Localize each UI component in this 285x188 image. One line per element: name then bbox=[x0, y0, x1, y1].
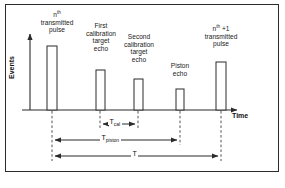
label-plus-one: +1 bbox=[220, 25, 229, 32]
label-pulse-2: pulse bbox=[191, 40, 251, 48]
label-piston-echo: Piston echo bbox=[158, 62, 202, 77]
label-sup-th-1: th bbox=[57, 10, 61, 15]
label-echo-3: echo bbox=[158, 70, 202, 78]
label-second-calibration-target-echo: Second calibration target echo bbox=[113, 33, 165, 63]
measure-label-tcal: Tcal bbox=[108, 118, 122, 125]
label-calibration-2: calibration bbox=[113, 41, 165, 49]
tcal-sub: cal bbox=[114, 121, 120, 127]
label-target-2: target bbox=[113, 48, 165, 56]
x-axis-label: Time bbox=[232, 112, 248, 119]
measure-label-t: T bbox=[131, 150, 138, 157]
measure-label-tpiston: Tpiston bbox=[100, 134, 121, 141]
label-piston: Piston bbox=[158, 62, 202, 70]
y-axis-label: Events bbox=[8, 48, 15, 88]
pulse-timing-diagram: Events Time nth transmitted pulse First … bbox=[0, 0, 285, 188]
label-first: First bbox=[77, 22, 125, 30]
label-nth-plus-1-transmitted-pulse: nth +1 transmitted pulse bbox=[191, 25, 251, 48]
t-base: T bbox=[133, 150, 137, 157]
tpiston-sub: piston bbox=[106, 137, 119, 143]
label-second: Second bbox=[113, 33, 165, 41]
label-transmitted-2: transmitted bbox=[191, 33, 251, 41]
